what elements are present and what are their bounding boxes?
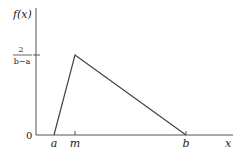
peak-numerator: 2 — [18, 45, 23, 54]
tick-m-label: m — [70, 137, 80, 150]
tick-b-label: b — [182, 137, 189, 150]
y-axis-label: f(x) — [12, 8, 32, 21]
origin-label: 0 — [26, 130, 32, 141]
peak-denominator: b−a — [14, 57, 31, 66]
pdf-curve — [54, 55, 186, 135]
tick-a-label: a — [51, 137, 58, 150]
triangular-pdf-diagram: f(x) 2 b−a 0 a m b x — [0, 0, 246, 159]
x-axis-label: x — [225, 137, 232, 150]
